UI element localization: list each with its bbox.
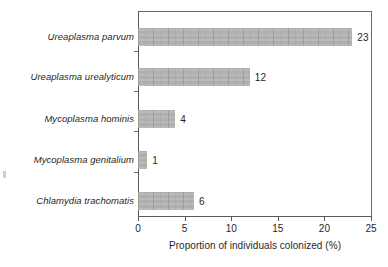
bar-value-label: 4 (180, 114, 186, 125)
x-axis-tick (324, 217, 325, 221)
bar-value-label: 12 (255, 72, 266, 83)
bar-row: 1 (138, 151, 371, 169)
category-label: Mycoplasma genitalium (2, 154, 134, 165)
bar-value-label: 23 (357, 32, 368, 43)
scan-artifact (3, 171, 6, 178)
x-axis-tick-label: 25 (365, 223, 376, 234)
bar-value-label: 6 (199, 196, 205, 207)
category-axis-labels: Ureaplasma parvumUreaplasma urealyticumM… (0, 0, 134, 267)
category-label: Ureaplasma parvum (2, 31, 134, 42)
x-axis-tick-label: 20 (319, 223, 330, 234)
y-axis-tick (134, 172, 138, 173)
category-label: Chlamydia trachomatis (2, 195, 134, 206)
bar (138, 192, 194, 210)
bar (138, 110, 175, 128)
y-axis-tick (134, 131, 138, 132)
x-axis-title: Proportion of individuals colonized (%) (138, 240, 372, 251)
y-axis-tick (134, 91, 138, 92)
category-label: Mycoplasma hominis (2, 113, 134, 124)
bar (138, 28, 352, 46)
bar-row: 4 (138, 110, 371, 128)
x-axis-tick (185, 217, 186, 221)
x-axis-tick (138, 217, 139, 221)
x-axis-tick-label: 15 (272, 223, 283, 234)
bar (138, 151, 147, 169)
bar-row: 12 (138, 68, 371, 86)
bar-chart-figure: Ureaplasma parvumUreaplasma urealyticumM… (0, 0, 388, 267)
bar-value-label: 1 (152, 155, 158, 166)
x-axis-tick (231, 217, 232, 221)
bar (138, 68, 250, 86)
x-axis-tick (371, 217, 372, 221)
bar-row: 23 (138, 28, 371, 46)
y-axis-tick (134, 51, 138, 52)
x-axis-spine (138, 216, 372, 217)
bar-row: 6 (138, 192, 371, 210)
category-label: Ureaplasma urealyticum (2, 71, 134, 82)
x-axis-tick-label: 10 (226, 223, 237, 234)
x-axis-tick-label: 0 (135, 223, 141, 234)
x-axis-tick (278, 217, 279, 221)
plot-frame-right (371, 11, 372, 217)
plot-frame-top (138, 11, 372, 12)
x-axis-tick-label: 5 (182, 223, 188, 234)
